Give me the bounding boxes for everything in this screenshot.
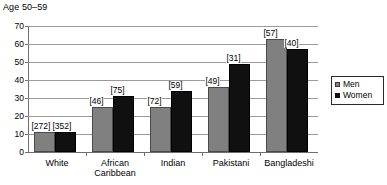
bar-value-label: [40] [284,39,299,48]
y-axis-tick-label: 30 [15,94,24,103]
bar-women [55,132,76,152]
bar-value-label: [352] [52,122,72,131]
legend-item-label: Men [343,80,360,89]
gridline [28,152,318,153]
bar-group: [72][59] [150,26,192,152]
bar-men [208,87,229,152]
legend-item-label: Women [343,91,372,100]
x-axis-category-label: Indian [144,158,202,168]
bar-group: [272][352] [34,26,76,152]
bar-value-label: [31] [226,54,241,63]
bar-women [229,64,250,152]
x-axis-category-label: African Caribbean [86,158,144,178]
x-axis-tick-mark [260,152,261,156]
y-axis-tick-label: 60 [15,40,24,49]
bar-men [150,107,171,152]
y-axis-tick-label: 0 [19,148,24,157]
bar-men [34,132,55,152]
y-axis-tick-label: 70 [15,22,24,31]
bar-men [92,107,113,152]
y-axis-tick-label: 20 [15,112,24,121]
y-axis-tick-label: 10 [15,130,24,139]
y-axis-tick-label: 40 [15,76,24,85]
bar-men [266,39,287,152]
bar-value-label: [272] [31,122,51,131]
bar-women [171,91,192,152]
bar-women [113,96,134,152]
legend-item: Men [335,79,380,90]
bar-group: [46][75] [92,26,134,152]
bar-group: [57][40] [266,26,308,152]
x-axis-category-label: Bangladeshi [260,158,318,168]
bar-value-label: [59] [168,81,183,90]
bar-value-label: [75] [110,86,125,95]
x-axis-tick-mark [202,152,203,156]
men-swatch-icon [335,82,340,87]
x-axis-tick-mark [86,152,87,156]
x-axis-category-label: Pakistani [202,158,260,168]
legend-item: Women [335,90,380,101]
bar-value-label: [49] [205,77,220,86]
bar-chart: Age 50–59 010203040506070 [272][352][46]… [0,0,387,185]
plot-area: [272][352][46][75][72][59][49][31][57][4… [28,26,318,152]
bar-value-label: [72] [147,97,162,106]
y-axis-tick-label: 50 [15,58,24,67]
x-axis-category-label: White [28,158,86,168]
bar-women [287,49,308,152]
x-axis-tick-mark [144,152,145,156]
women-swatch-icon [335,93,340,98]
y-axis-tick-labels: 010203040506070 [0,0,24,185]
bar-value-label: [46] [89,97,104,106]
bar-value-label: [57] [263,29,278,38]
chart-legend: MenWomen [331,76,384,105]
bar-group: [49][31] [208,26,250,152]
